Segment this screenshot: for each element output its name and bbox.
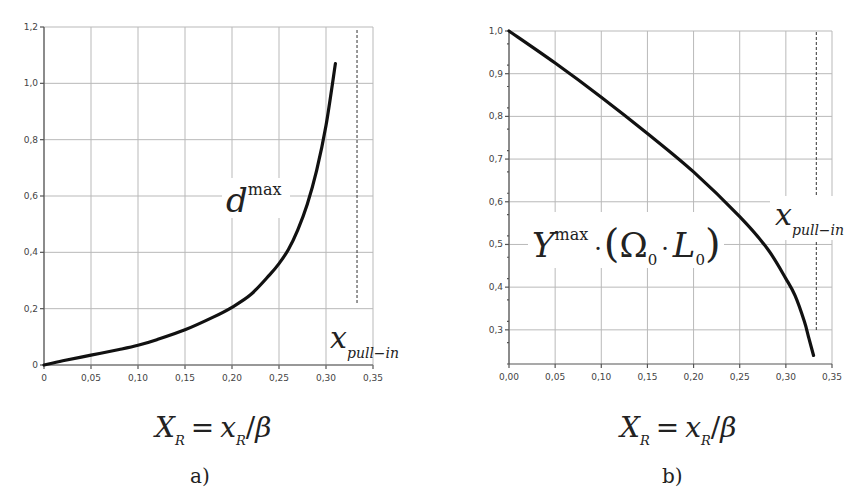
x-tick-label: 0,30 <box>316 373 336 383</box>
y-tick-label: 0,4 <box>489 282 504 292</box>
x-tick-label: 0,20 <box>222 373 242 383</box>
x-tick-label: 0,10 <box>128 373 148 383</box>
y-tick-label: 1,0 <box>489 26 504 36</box>
x-tick-label: 0 <box>41 373 47 383</box>
y-tick-label: 0,4 <box>24 247 39 257</box>
chart-a-curve <box>44 64 335 365</box>
y-tick-label: 0,6 <box>24 191 39 201</box>
y-tick-label: 0,5 <box>489 239 503 249</box>
x-tick-label: 0,30 <box>776 372 796 382</box>
x-tick-label: 0,10 <box>591 372 611 382</box>
y-tick-label: 0,9 <box>489 69 504 79</box>
y-tick-label: 0,8 <box>24 135 39 145</box>
y-tick-label: 0 <box>32 360 38 370</box>
x-tick-label: 0,05 <box>81 373 101 383</box>
y-tick-label: 0,2 <box>24 304 38 314</box>
chart-b-caption: b) <box>662 464 683 488</box>
figure-canvas: 00,050,100,150,200,250,300,3500,20,40,60… <box>0 0 861 495</box>
x-tick-label: 0,05 <box>545 372 565 382</box>
chart-b: 0,000,050,100,150,200,250,300,350,30,40,… <box>489 26 844 488</box>
chart-a-x-axis-label: XR=xR/β <box>153 411 271 448</box>
y-tick-label: 1,2 <box>24 22 38 32</box>
x-tick-label: 0,00 <box>499 372 519 382</box>
chart-a-grid <box>40 27 373 369</box>
x-tick-label: 0,25 <box>269 373 289 383</box>
x-tick-label: 0,35 <box>363 373 383 383</box>
y-tick-label: 0,3 <box>489 325 503 335</box>
chart-b-x-axis-label: XR=xR/β <box>618 411 736 448</box>
x-tick-label: 0,35 <box>822 372 842 382</box>
x-tick-label: 0,15 <box>175 373 195 383</box>
chart-a: 00,050,100,150,200,250,300,3500,20,40,60… <box>24 22 399 488</box>
y-tick-label: 0,8 <box>489 111 504 121</box>
x-tick-label: 0,20 <box>684 372 704 382</box>
y-tick-label: 0,6 <box>489 197 504 207</box>
chart-a-caption: a) <box>190 464 210 488</box>
y-tick-label: 1,0 <box>24 78 39 88</box>
chart-a-pull-in-label: xpull−in <box>330 320 399 361</box>
y-tick-label: 0,7 <box>489 154 503 164</box>
x-tick-label: 0,25 <box>730 372 750 382</box>
x-tick-label: 0,15 <box>637 372 657 382</box>
